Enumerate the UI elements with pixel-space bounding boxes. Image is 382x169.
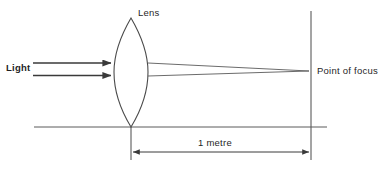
lens-shape (114, 18, 148, 127)
diagram-canvas (0, 0, 382, 169)
converging-ray-upper (148, 63, 309, 71)
lens-focus-diagram: Lens Light Point of focus 1 metre (0, 0, 382, 169)
lens-label: Lens (138, 8, 160, 18)
point-of-focus-label: Point of focus (317, 66, 378, 76)
distance-label: 1 metre (198, 138, 232, 148)
converging-ray-lower (148, 71, 309, 76)
light-label: Light (6, 63, 30, 73)
